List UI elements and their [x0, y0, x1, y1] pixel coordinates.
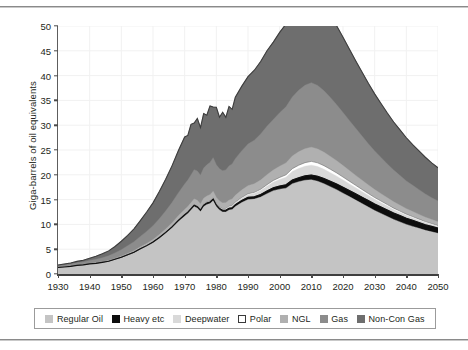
- x-tick-mark: [121, 274, 122, 278]
- chart-area: Giga-barrels of oil equivalents 05101520…: [0, 12, 468, 300]
- bottom-divider-rule: [0, 339, 468, 341]
- x-tick-label: 2020: [332, 281, 353, 292]
- x-tick-label: 1960: [142, 281, 163, 292]
- x-tick-label: 1980: [206, 281, 227, 292]
- y-tick-label: 50: [40, 21, 58, 32]
- x-tick-label: 2030: [364, 281, 385, 292]
- stacked-area-svg: [58, 26, 438, 274]
- x-tick-mark: [406, 274, 407, 278]
- y-axis-title: Giga-barrels of oil equivalents: [27, 36, 38, 256]
- x-tick-label: 1950: [111, 281, 132, 292]
- legend-item-polar[interactable]: Polar: [238, 314, 271, 324]
- top-divider-rule: [0, 6, 468, 8]
- x-tick-mark: [153, 274, 154, 278]
- y-tick-label: 5: [46, 244, 58, 255]
- x-tick-mark: [311, 274, 312, 278]
- y-tick-label: 45: [40, 45, 58, 56]
- x-tick-mark: [216, 274, 217, 278]
- x-tick-label: 1970: [174, 281, 195, 292]
- x-tick-label: 1990: [237, 281, 258, 292]
- legend-swatch-icon: [45, 315, 53, 323]
- plot-area: 05101520253035404550 1930194019501960197…: [58, 26, 438, 274]
- x-tick-label: 2050: [427, 281, 448, 292]
- y-tick-label: 25: [40, 145, 58, 156]
- x-tick-mark: [375, 274, 376, 278]
- x-tick-mark: [438, 274, 439, 278]
- x-tick-label: 1930: [47, 281, 68, 292]
- x-tick-label: 2010: [301, 281, 322, 292]
- legend-item-non-con-gas[interactable]: Non-Con Gas: [357, 314, 425, 324]
- x-tick-label: 2040: [396, 281, 417, 292]
- legend-label: Heavy etc: [124, 314, 165, 324]
- y-tick-label: 35: [40, 95, 58, 106]
- legend-swatch-icon: [238, 315, 246, 323]
- y-tick-label: 40: [40, 70, 58, 81]
- x-tick-mark: [185, 274, 186, 278]
- legend-item-regular-oil[interactable]: Regular Oil: [45, 314, 103, 324]
- y-tick-label: 15: [40, 194, 58, 205]
- legend-label: Deepwater: [185, 314, 229, 324]
- legend-label: Regular Oil: [57, 314, 103, 324]
- legend-item-heavy-etc[interactable]: Heavy etc: [112, 314, 164, 324]
- stacked-area-plot: [58, 26, 438, 274]
- legend-label: Gas: [331, 314, 348, 324]
- legend-swatch-icon: [280, 315, 288, 323]
- y-tick-label: 20: [40, 169, 58, 180]
- figure: Giga-barrels of oil equivalents 05101520…: [0, 0, 468, 350]
- legend-item-deepwater[interactable]: Deepwater: [173, 314, 229, 324]
- legend-label: Polar: [250, 314, 272, 324]
- x-tick-mark: [58, 274, 59, 278]
- x-tick-mark: [90, 274, 91, 278]
- legend-swatch-icon: [173, 315, 181, 323]
- legend-swatch-icon: [320, 315, 328, 323]
- legend-label: NGL: [292, 314, 311, 324]
- chart-legend: Regular OilHeavy etcDeepwaterPolarNGLGas…: [34, 308, 436, 329]
- legend-item-ngl[interactable]: NGL: [280, 314, 310, 324]
- y-tick-label: 10: [40, 219, 58, 230]
- x-tick-label: 2000: [269, 281, 290, 292]
- legend-swatch-icon: [357, 315, 365, 323]
- legend-item-gas[interactable]: Gas: [320, 314, 348, 324]
- legend-swatch-icon: [112, 315, 120, 323]
- y-tick-label: 0: [46, 269, 58, 280]
- legend-label: Non-Con Gas: [369, 314, 425, 324]
- x-tick-mark: [280, 274, 281, 278]
- x-tick-label: 1940: [79, 281, 100, 292]
- x-tick-mark: [343, 274, 344, 278]
- x-tick-mark: [248, 274, 249, 278]
- y-tick-label: 30: [40, 120, 58, 131]
